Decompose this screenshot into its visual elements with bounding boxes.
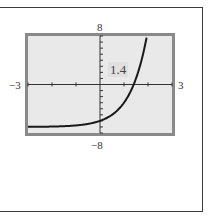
xmax-label: 3 xyxy=(178,80,184,91)
function-curve xyxy=(28,38,147,127)
plot-area xyxy=(0,0,213,220)
x-intercept-annotation: 1.4 xyxy=(108,62,128,77)
ymax-label: 8 xyxy=(97,22,103,33)
ymin-label: −8 xyxy=(91,140,103,151)
axes xyxy=(28,36,172,133)
xmin-label: −3 xyxy=(9,80,21,91)
